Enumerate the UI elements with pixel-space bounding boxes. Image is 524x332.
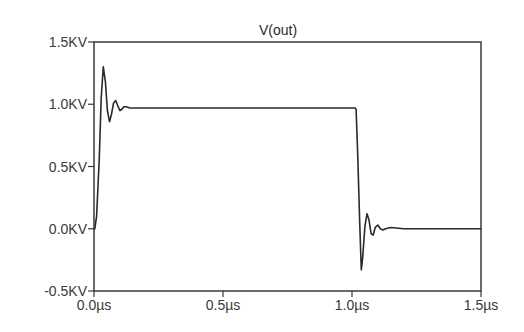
y-tick-label: 0.5KV [49, 159, 88, 175]
x-tick-label: 1.5µs [464, 297, 499, 313]
x-tick-label: 0.5µs [206, 297, 241, 313]
plot-border [94, 42, 481, 291]
x-axis: 0.0µs0.5µs1.0µs1.5µs [77, 291, 499, 313]
series-line-vout [94, 67, 481, 270]
x-tick-label: 1.0µs [335, 297, 370, 313]
x-tick-label: 0.0µs [77, 297, 112, 313]
y-tick-label: 1.5KV [49, 34, 88, 50]
plot-frame [94, 42, 481, 291]
y-axis: -0.5KV0.0KV0.5KV1.0KV1.5KV [44, 34, 94, 299]
series-layer [94, 67, 481, 270]
chart-title: V(out) [259, 22, 297, 38]
y-tick-label: 1.0KV [49, 96, 88, 112]
y-tick-label: 0.0KV [49, 221, 88, 237]
line-chart: V(out) -0.5KV0.0KV0.5KV1.0KV1.5KV 0.0µs0… [0, 0, 524, 332]
